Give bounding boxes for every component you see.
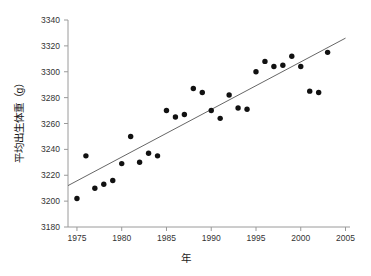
data-point: [289, 54, 294, 59]
x-tick-label: 1995: [239, 233, 273, 243]
data-point: [244, 107, 249, 112]
data-point: [209, 108, 214, 113]
y-tick-label: 3300: [30, 67, 60, 77]
data-point: [101, 182, 106, 187]
y-tick-label: 3220: [30, 170, 60, 180]
x-tick-label: 1985: [149, 233, 183, 243]
data-point: [307, 88, 312, 93]
data-point: [164, 108, 169, 113]
y-tick-label: 3240: [30, 144, 60, 154]
data-point: [137, 160, 142, 165]
data-point: [235, 105, 240, 110]
data-point: [262, 59, 267, 64]
scatter-chart: 平均出生体重（g） 年 3180320032203240326032803300…: [0, 0, 371, 276]
data-point: [155, 153, 160, 158]
y-tick-label: 3280: [30, 93, 60, 103]
data-point: [280, 63, 285, 68]
data-point: [119, 161, 124, 166]
x-tick-label: 2000: [284, 233, 318, 243]
data-point: [200, 90, 205, 95]
data-point: [173, 114, 178, 119]
data-point: [128, 134, 133, 139]
data-point: [316, 90, 321, 95]
data-point: [92, 185, 97, 190]
data-point: [182, 112, 187, 117]
data-point: [217, 116, 222, 121]
x-tick-label: 1990: [194, 233, 228, 243]
x-tick-label: 2005: [329, 233, 363, 243]
data-point: [110, 178, 115, 183]
data-point: [83, 153, 88, 158]
trend-line: [68, 38, 346, 185]
data-point: [74, 196, 79, 201]
y-tick-label: 3340: [30, 15, 60, 25]
data-point: [298, 64, 303, 69]
x-axis-label: 年: [0, 250, 371, 265]
data-point: [191, 86, 196, 91]
x-tick-label: 1975: [60, 233, 94, 243]
x-tick-label: 1980: [105, 233, 139, 243]
y-axis-label: 平均出生体重（g）: [11, 41, 26, 201]
y-tick-label: 3180: [30, 222, 60, 232]
y-tick-label: 3320: [30, 41, 60, 51]
data-point: [253, 69, 258, 74]
data-point: [325, 50, 330, 55]
data-point: [226, 92, 231, 97]
data-point: [271, 64, 276, 69]
data-point: [146, 151, 151, 156]
y-tick-label: 3260: [30, 119, 60, 129]
y-tick-label: 3200: [30, 196, 60, 206]
